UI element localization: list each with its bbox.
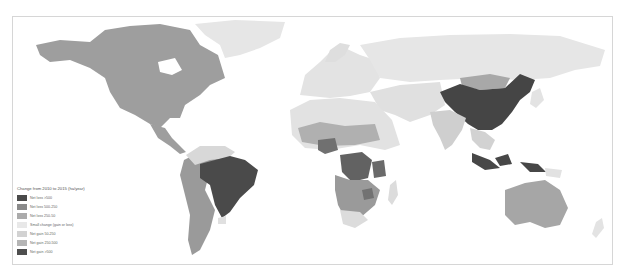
region-nigeria (318, 138, 338, 154)
region-indonesia (472, 153, 546, 172)
region-madagascar (388, 180, 398, 205)
legend-item: Net loss >500 (17, 193, 107, 202)
region-tanzania (372, 160, 386, 178)
region-southeast-asia (470, 128, 495, 150)
legend-label: Net gain >500 (30, 250, 52, 254)
legend-label: Net loss 500-250 (30, 205, 57, 209)
region-uruguay (218, 216, 226, 224)
region-zimbabwe (362, 188, 374, 200)
legend-item: Net gain >500 (17, 247, 107, 256)
legend-label: Net loss >500 (30, 196, 52, 200)
legend-label: Net loss 250-50 (30, 214, 55, 218)
region-central-america (150, 124, 186, 154)
legend-swatch (17, 213, 27, 219)
legend-label: Net gain 50-250 (30, 232, 56, 236)
legend-item: Net loss 250-50 (17, 211, 107, 220)
legend-swatch (17, 231, 27, 237)
legend-title: Change from 2010 to 2015 (ha/year) (17, 186, 107, 191)
region-new-zealand (592, 218, 604, 238)
legend: Change from 2010 to 2015 (ha/year) Net l… (17, 186, 107, 256)
legend-item: Net gain 250-500 (17, 238, 107, 247)
region-north-america (36, 24, 225, 128)
legend-label: Small change (gain or loss) (30, 223, 74, 227)
region-papua (545, 168, 562, 178)
legend-swatch (17, 204, 27, 210)
legend-item: Net gain 50-250 (17, 229, 107, 238)
region-india (430, 110, 466, 150)
legend-swatch (17, 240, 27, 246)
legend-label: Net gain 250-500 (30, 241, 58, 245)
legend-item: Net loss 500-250 (17, 202, 107, 211)
region-japan (530, 88, 544, 108)
region-russia (360, 34, 605, 82)
region-sahel (298, 122, 380, 146)
legend-item: Small change (gain or loss) (17, 220, 107, 229)
region-africa-central (340, 152, 372, 182)
legend-swatch (17, 222, 27, 228)
legend-swatch (17, 195, 27, 201)
region-australia (505, 180, 568, 228)
legend-swatch (17, 249, 27, 255)
